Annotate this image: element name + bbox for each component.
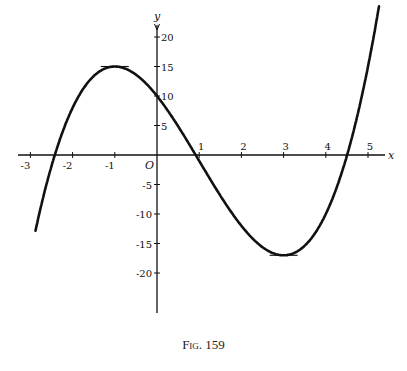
y-tick-label: -5 [142, 180, 152, 191]
x-axis-label: x [388, 149, 395, 162]
origin-label: O [145, 159, 154, 172]
y-tick-label: -10 [136, 209, 152, 220]
y-tick-label: -20 [136, 268, 152, 279]
chart-figure: -3-2-1123452015105-5-10-15-20 x y O [0, 0, 407, 371]
axes [18, 24, 385, 313]
y-tick-label: -15 [136, 239, 152, 250]
x-tick-label: 4 [325, 141, 331, 152]
y-tick-label: 20 [161, 32, 174, 43]
x-tick-label: 2 [240, 141, 246, 152]
x-tick-label: -1 [105, 160, 115, 171]
y-tick-label: 10 [161, 91, 174, 102]
figure-caption: Fig. 159 [0, 337, 407, 353]
x-tick-label: 3 [282, 141, 288, 152]
y-axis-label: y [153, 10, 161, 23]
x-tick-label: -2 [63, 160, 73, 171]
cubic-curve [36, 6, 380, 255]
x-tick-label: 1 [198, 141, 204, 152]
y-tick-label: 15 [161, 62, 174, 73]
x-tick-label: -3 [21, 160, 31, 171]
y-tick-label: 5 [161, 121, 167, 132]
x-tick-label: 5 [367, 141, 373, 152]
